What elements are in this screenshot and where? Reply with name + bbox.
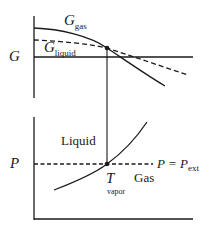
diagram-lines [0, 0, 207, 231]
bottom-intersection-dot [105, 162, 110, 167]
g-liquid-label: Gliquid [44, 40, 76, 55]
phase-diagram: G Ggas Gliquid P Liquid Gas P = Pext T v… [0, 0, 207, 231]
g-liquid-main: G [44, 39, 55, 55]
t-vapor-label-sub: vapor [107, 188, 125, 196]
gas-region-label: Gas [134, 171, 154, 184]
g-axis-label: G [9, 49, 20, 64]
p-axis-label: P [10, 156, 19, 171]
p-ext-label: P = Pext [157, 157, 199, 170]
g-gas-main: G [64, 12, 75, 28]
g-liquid-sub: liquid [55, 48, 76, 58]
g-gas-sub: gas [75, 21, 87, 31]
liquid-region-label: Liquid [61, 134, 96, 147]
t-vapor-label-main: T [106, 171, 114, 186]
p-ext-main: P = P [157, 156, 188, 171]
p-ext-sub: ext [188, 163, 199, 173]
top-intersection-dot [105, 46, 110, 51]
g-gas-label: Ggas [64, 13, 87, 28]
